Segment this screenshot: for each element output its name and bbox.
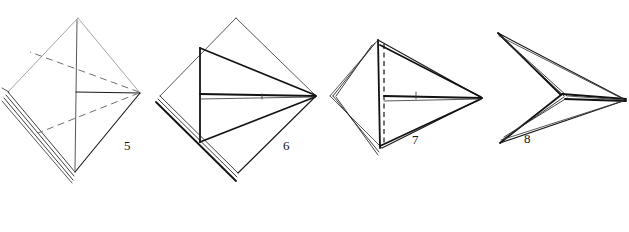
figure-6-label: 6 [283,138,290,153]
figure-7-label: 7 [412,132,419,147]
origami-diagram-svg: 5 6 [0,0,629,232]
figure-5-label: 5 [124,138,131,153]
figure-8-label: 8 [524,131,531,146]
diagram-sheet: 5 6 [0,0,629,232]
